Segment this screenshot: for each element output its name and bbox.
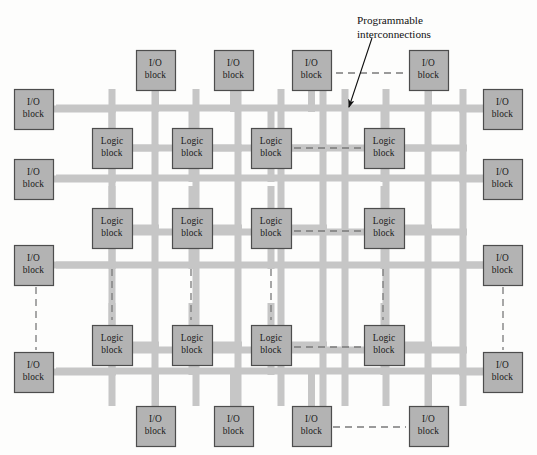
logic-stub-up-8 bbox=[381, 186, 388, 209]
io-stub-top-4 bbox=[425, 90, 432, 112]
logic-stub-right-12 bbox=[403, 342, 432, 349]
fpga-architecture-diagram: I/OblockI/OblockI/OblockI/OblockI/Oblock… bbox=[0, 0, 537, 455]
io-stub-right-2 bbox=[459, 176, 483, 183]
io-stub-top-2 bbox=[230, 90, 237, 112]
logic-stub-right-10 bbox=[211, 342, 242, 349]
io-block-right-1[interactable]: I/Oblock bbox=[484, 90, 523, 130]
io-block-right-3[interactable]: I/Oblock bbox=[484, 246, 523, 286]
v-bus-10 bbox=[460, 89, 467, 406]
io-block-label-line2: block bbox=[301, 70, 323, 80]
io-block-top-2[interactable]: I/Oblock bbox=[215, 51, 254, 91]
io-block-label-line1: I/O bbox=[496, 167, 509, 177]
io-block-label-line1: I/O bbox=[149, 414, 162, 424]
io-stub-bottom-1 bbox=[152, 371, 159, 406]
annotation-line-2: interconnections bbox=[357, 28, 431, 40]
io-block-label-line2: block bbox=[418, 70, 440, 80]
io-block-label-line1: I/O bbox=[305, 414, 318, 424]
logic-block-r1c2[interactable]: Logicblock bbox=[173, 129, 213, 169]
logic-block-label-line2: block bbox=[101, 148, 123, 158]
io-block-right-2[interactable]: I/Oblock bbox=[484, 160, 523, 200]
io-stub-right-3 bbox=[459, 262, 483, 269]
logic-block-r1c3[interactable]: Logicblock bbox=[252, 129, 292, 169]
v-bus-4 bbox=[235, 89, 242, 406]
logic-block-r2c4[interactable]: Logicblock bbox=[365, 209, 405, 249]
logic-block-r2c2[interactable]: Logicblock bbox=[173, 209, 213, 249]
logic-block-label-line2: block bbox=[373, 148, 395, 158]
logic-block-r3c4[interactable]: Logicblock bbox=[365, 326, 405, 366]
io-block-label-line2: block bbox=[301, 426, 323, 436]
io-block-label-line1: I/O bbox=[422, 414, 435, 424]
io-block-top-4[interactable]: I/Oblock bbox=[410, 51, 449, 91]
io-block-label-line1: I/O bbox=[27, 253, 40, 263]
logic-block-label-line2: block bbox=[101, 345, 123, 355]
io-block-label-line2: block bbox=[223, 426, 245, 436]
logic-stub-up-1 bbox=[109, 108, 116, 129]
logic-stub-down-6 bbox=[189, 247, 196, 269]
logic-block-r2c3[interactable]: Logicblock bbox=[252, 209, 292, 249]
logic-stub-down-5 bbox=[109, 247, 116, 269]
v-bus-2 bbox=[152, 89, 159, 406]
io-stub-left-4 bbox=[53, 369, 116, 376]
logic-block-r3c3[interactable]: Logicblock bbox=[252, 326, 292, 366]
v-bus-6 bbox=[320, 89, 327, 406]
io-block-bottom-4[interactable]: I/Oblock bbox=[410, 407, 449, 447]
logic-block-label-line2: block bbox=[260, 228, 282, 238]
logic-block-label-line2: block bbox=[181, 148, 203, 158]
logic-block-label-line2: block bbox=[181, 228, 203, 238]
logic-stub-right-2 bbox=[211, 145, 242, 152]
io-block-left-2[interactable]: I/Oblock bbox=[15, 160, 54, 200]
io-block-label-line2: block bbox=[418, 426, 440, 436]
io-block-left-3[interactable]: I/Oblock bbox=[15, 246, 54, 286]
io-block-label-line1: I/O bbox=[496, 97, 509, 107]
io-block-label-line1: I/O bbox=[422, 58, 435, 68]
logic-block-r3c1[interactable]: Logicblock bbox=[93, 326, 133, 366]
io-block-label-line2: block bbox=[23, 179, 45, 189]
logic-block-r3c2[interactable]: Logicblock bbox=[173, 326, 213, 366]
logic-block-label-line1: Logic bbox=[181, 216, 203, 226]
logic-stub-down-4 bbox=[381, 167, 388, 182]
logic-block-label-line1: Logic bbox=[373, 216, 395, 226]
io-block-label-line2: block bbox=[23, 109, 45, 119]
io-block-label-line1: I/O bbox=[27, 360, 40, 370]
logic-stub-up-12 bbox=[381, 303, 388, 326]
logic-stub-up-7 bbox=[268, 186, 275, 209]
logic-block-label-line1: Logic bbox=[373, 136, 395, 146]
logic-block-r1c4[interactable]: Logicblock bbox=[365, 129, 405, 169]
logic-block-label-line1: Logic bbox=[101, 136, 123, 146]
logic-block-label-line1: Logic bbox=[181, 333, 203, 343]
logic-block-r2c1[interactable]: Logicblock bbox=[93, 209, 133, 249]
io-block-label-line2: block bbox=[145, 70, 167, 80]
io-block-label-line2: block bbox=[492, 372, 514, 382]
logic-stub-right-5 bbox=[131, 225, 159, 232]
io-block-top-1[interactable]: I/Oblock bbox=[137, 51, 176, 91]
io-block-bottom-3[interactable]: I/Oblock bbox=[293, 407, 332, 447]
io-block-label-line1: I/O bbox=[305, 58, 318, 68]
logic-block-label-line2: block bbox=[101, 228, 123, 238]
logic-stub-up-2 bbox=[189, 108, 196, 129]
io-block-top-3[interactable]: I/Oblock bbox=[293, 51, 332, 91]
io-stub-top-1 bbox=[152, 90, 159, 112]
logic-stub-up-5 bbox=[109, 186, 116, 209]
logic-stub-down-7 bbox=[268, 247, 275, 269]
io-block-label-line1: I/O bbox=[227, 414, 240, 424]
io-block-bottom-1[interactable]: I/Oblock bbox=[137, 407, 176, 447]
io-block-label-line2: block bbox=[23, 372, 45, 382]
logic-block-r1c1[interactable]: Logicblock bbox=[93, 129, 133, 169]
io-block-label-line2: block bbox=[492, 179, 514, 189]
logic-block-label-line1: Logic bbox=[260, 216, 282, 226]
io-block-right-4[interactable]: I/Oblock bbox=[484, 353, 523, 393]
logic-block-label-line1: Logic bbox=[260, 136, 282, 146]
logic-stub-down-8 bbox=[381, 247, 388, 269]
io-block-label-line1: I/O bbox=[496, 360, 509, 370]
io-block-left-4[interactable]: I/Oblock bbox=[15, 353, 54, 393]
io-block-left-1[interactable]: I/Oblock bbox=[15, 90, 54, 130]
io-block-bottom-2[interactable]: I/Oblock bbox=[215, 407, 254, 447]
logic-stub-right-9 bbox=[131, 342, 159, 349]
io-stub-bottom-3 bbox=[308, 371, 315, 406]
io-stub-right-1 bbox=[459, 106, 483, 113]
io-stub-left-1 bbox=[53, 106, 116, 113]
v-bus-9 bbox=[425, 89, 432, 406]
fpga-diagram-canvas: I/OblockI/OblockI/OblockI/OblockI/Oblock… bbox=[0, 0, 537, 455]
logic-stub-up-4 bbox=[381, 108, 388, 129]
v-bus-7 bbox=[342, 89, 349, 406]
